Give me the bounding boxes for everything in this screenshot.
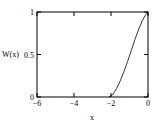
x-tick-label: −6 bbox=[33, 99, 42, 108]
x-tick-label: −2 bbox=[107, 99, 116, 108]
x-tick-label: −4 bbox=[70, 99, 79, 108]
x-axis-label: x bbox=[90, 113, 94, 122]
y-tick-label: 1 bbox=[30, 8, 34, 17]
y-axis-label: W(x) bbox=[2, 50, 19, 59]
plot-frame bbox=[37, 12, 148, 97]
chart: −6−4−2000.51 x W(x) bbox=[0, 0, 160, 125]
tick-labels: −6−4−2000.51 bbox=[24, 8, 150, 108]
axis-ticks bbox=[37, 12, 148, 97]
y-tick-label: 0.5 bbox=[24, 51, 34, 60]
x-tick-label: 0 bbox=[146, 99, 150, 108]
series-line-w bbox=[109, 12, 148, 97]
y-tick-label: 0 bbox=[30, 93, 34, 102]
